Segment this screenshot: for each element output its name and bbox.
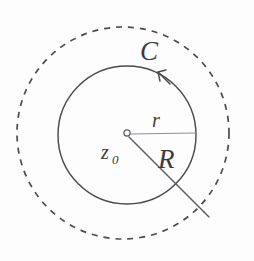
figure-canvas: C r R z 0 xyxy=(0,0,254,261)
label-radius-r: r xyxy=(152,109,160,131)
center-dot-icon xyxy=(124,130,130,136)
contour-diagram: C r R z 0 xyxy=(0,0,254,261)
radius-R-endpoint-tick xyxy=(204,212,209,217)
label-center-z-subscript: 0 xyxy=(112,152,119,167)
label-radius-R: R xyxy=(157,144,175,174)
label-center-z0: z 0 xyxy=(100,141,119,167)
label-contour-c: C xyxy=(140,36,159,66)
outer-dashed-circle xyxy=(17,27,229,239)
label-center-z-base: z xyxy=(100,141,109,163)
radius-line-r xyxy=(128,133,196,134)
